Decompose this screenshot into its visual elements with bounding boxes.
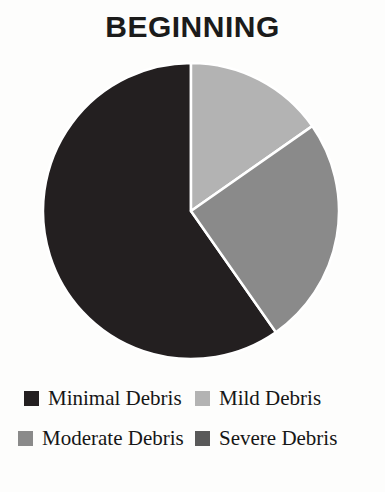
legend-item-severe-debris[interactable]: Severe Debris [195, 418, 337, 458]
pie-chart-figure: BEGINNING Minimal Debris Mild Debris Mod… [0, 0, 385, 492]
legend-label-minimal-debris: Minimal Debris [48, 386, 182, 410]
legend-row: Minimal Debris Mild Debris [0, 378, 385, 418]
chart-legend: Minimal Debris Mild Debris Moderate Debr… [0, 378, 385, 462]
legend-item-minimal-debris[interactable]: Minimal Debris [24, 378, 195, 418]
legend-label-moderate-debris: Moderate Debris [42, 426, 184, 450]
legend-swatch-minimal-debris [24, 391, 39, 406]
legend-swatch-mild-debris [195, 391, 210, 406]
pie-chart-svg [41, 61, 341, 361]
legend-item-moderate-debris[interactable]: Moderate Debris [18, 418, 195, 458]
legend-swatch-moderate-debris [18, 431, 33, 446]
legend-label-severe-debris: Severe Debris [219, 426, 337, 450]
pie-slice-group [43, 63, 339, 359]
legend-swatch-severe-debris [195, 431, 210, 446]
legend-row: Moderate Debris Severe Debris [0, 418, 385, 458]
legend-item-mild-debris[interactable]: Mild Debris [195, 378, 321, 418]
legend-label-mild-debris: Mild Debris [219, 386, 321, 410]
pie-chart-plot-area [41, 61, 341, 361]
chart-title: BEGINNING [0, 8, 385, 46]
